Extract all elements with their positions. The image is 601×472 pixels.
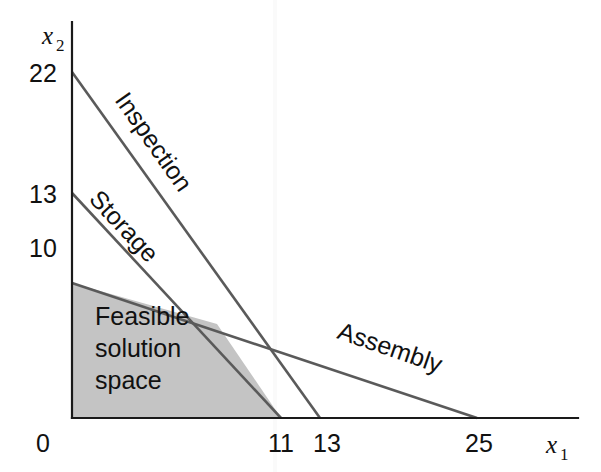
feasible-region-label-line2: solution — [95, 334, 181, 362]
origin-label: 0 — [36, 429, 50, 457]
x-axis-label: x — [545, 431, 557, 458]
y-tick-label-13: 13 — [29, 180, 57, 208]
feasible-region-label-line3: space — [95, 366, 162, 394]
y-tick-label-10: 10 — [29, 234, 57, 262]
assembly-line-label: Assembly — [334, 316, 446, 378]
storage-line-label: Storage — [84, 184, 164, 267]
linear-programming-chart: x 2 x 1 22 13 10 0 11 13 25 Inspection S… — [0, 0, 601, 472]
x-tick-label-13: 13 — [313, 429, 341, 457]
y-axis-label-subscript: 2 — [56, 36, 65, 55]
feasible-region-label-line1: Feasible — [95, 302, 190, 330]
x-axis-label-subscript: 1 — [560, 445, 569, 464]
x-tick-label-25: 25 — [465, 429, 493, 457]
y-axis-label: x — [41, 22, 53, 49]
scan-artifact-line — [273, 0, 277, 472]
x-tick-label-11: 11 — [268, 429, 294, 457]
lp-graph-figure: x 2 x 1 22 13 10 0 11 13 25 Inspection S… — [0, 0, 601, 472]
y-tick-label-22: 22 — [29, 59, 57, 87]
